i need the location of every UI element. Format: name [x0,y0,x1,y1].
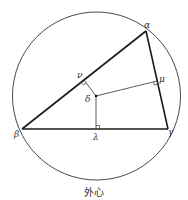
label-beta: β [13,129,19,139]
label-lambda: λ [92,132,99,142]
circumcenter-diagram: α β γ δ ν μ λ [0,0,188,200]
label-delta: δ [85,94,90,104]
circumcenter-point [95,95,98,98]
label-mu: μ [159,74,165,84]
figure-caption: 外心 [0,184,188,199]
perpendicular-delta-mu [96,81,157,96]
label-gamma: γ [168,127,174,137]
right-angle-marker-nu [81,82,86,85]
label-alpha: α [144,20,150,30]
label-nu: ν [77,70,83,80]
